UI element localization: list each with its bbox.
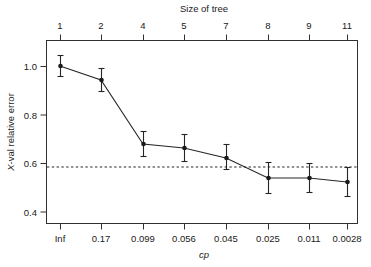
error-bars [58,55,351,197]
bottom-tick-label-1: Inf [55,233,66,244]
top-tick-label-6: 8 [265,20,270,31]
y-axis: 1.0 0.8 0.6 0.4 X-val relative error [5,61,47,218]
data-point-2 [99,78,104,83]
bottom-tick-label-6: 0.025 [256,233,280,244]
top-axis-title: Size of tree [180,3,228,14]
data-point-4 [182,146,187,151]
xval-relative-error-chart: 1 2 4 5 7 8 9 11 Size of tree 1.0 0.8 0.… [0,0,371,267]
plot-frame [46,40,358,224]
data-point-3 [141,142,146,147]
bottom-tick-label-7: 0.011 [297,233,320,244]
y-tick-label-1.0: 1.0 [24,61,37,72]
top-tick-label-5: 7 [223,20,228,31]
top-tick-label-2: 2 [98,20,103,31]
cp-plot-figure: 1 2 4 5 7 8 9 11 Size of tree 1.0 0.8 0.… [0,0,371,267]
top-tick-label-8: 11 [342,20,352,31]
data-point-7 [307,176,312,181]
y-axis-title-rest: -val relative error [5,93,16,164]
y-axis-title: X-val relative error [5,93,16,172]
top-tick-label-1: 1 [57,20,62,31]
bottom-tick-label-3: 0.099 [131,233,155,244]
data-points [58,64,350,185]
bottom-tick-label-5: 0.045 [214,233,238,244]
y-tick-label-0.8: 0.8 [24,110,37,121]
x-axis-title: cp [199,249,209,260]
y-tick-label-0.6: 0.6 [24,158,37,169]
top-tick-label-3: 4 [140,20,145,31]
data-point-5 [224,156,229,161]
data-point-8 [345,180,350,185]
y-tick-label-0.4: 0.4 [24,207,37,218]
bottom-tick-label-4: 0.056 [172,233,196,244]
data-point-6 [266,176,271,181]
bottom-tick-label-2: 0.17 [92,233,111,244]
top-tick-label-7: 9 [306,20,311,31]
top-tick-label-4: 5 [181,20,186,31]
top-axis: 1 2 4 5 7 8 9 11 Size of tree [46,3,358,41]
xval-error-line [60,66,347,182]
data-point-1 [58,64,63,69]
bottom-axis: Inf 0.17 0.099 0.056 0.045 0.025 0.011 0… [55,224,362,261]
bottom-tick-label-8: 0.0028 [332,233,361,244]
